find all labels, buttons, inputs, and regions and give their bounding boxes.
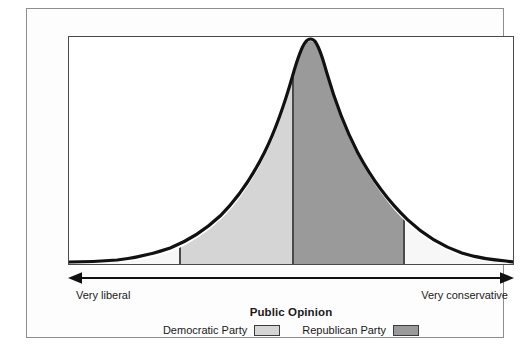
arrow-left-icon [68, 272, 82, 284]
legend-item-republican: Republican Party [302, 324, 419, 336]
figure-frame: Very liberal Very conservative Public Op… [26, 8, 504, 338]
legend-item-democratic: Democratic Party [163, 324, 280, 336]
legend-label-republican: Republican Party [302, 324, 386, 336]
axis-label-very-liberal: Very liberal [76, 289, 130, 301]
legend-label-democratic: Democratic Party [163, 324, 247, 336]
axis-endpoint-labels: Very liberal Very conservative [68, 289, 514, 305]
arrow-right-icon [500, 272, 514, 284]
plot-area [68, 36, 514, 265]
axis-label-very-conservative: Very conservative [421, 289, 508, 301]
legend-swatch-democratic [254, 325, 280, 336]
bell-curve-icon [69, 37, 513, 264]
legend-swatch-republican [393, 325, 419, 336]
legend: Democratic Party Republican Party [27, 324, 528, 336]
figure-container: Very liberal Very conservative Public Op… [0, 0, 528, 356]
axis-arrow [68, 269, 514, 287]
axis-title: Public Opinion [27, 306, 528, 318]
